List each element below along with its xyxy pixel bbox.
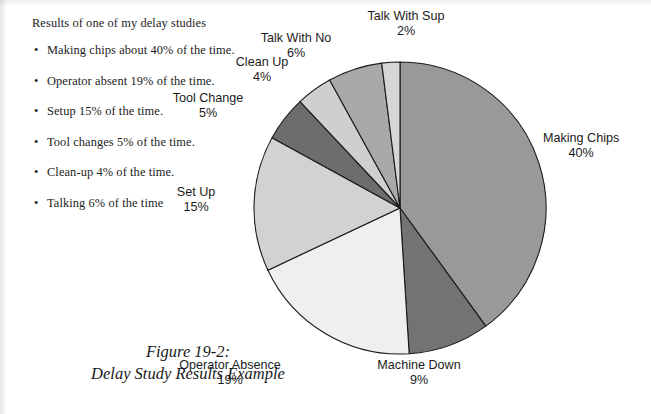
pie-label-talk-with-sup: Talk With Sup 2% bbox=[350, 9, 462, 39]
pie-label-name: Talk With No bbox=[241, 31, 351, 46]
pie-label-making-chips: Making Chips 40% bbox=[543, 131, 619, 161]
pie-label-value: 2% bbox=[350, 24, 462, 39]
pie-label-value: 40% bbox=[543, 146, 619, 161]
pie-label-name: Talk With Sup bbox=[350, 9, 462, 24]
pie-label-value: 15% bbox=[153, 200, 239, 215]
pie-label-name: Tool Change bbox=[153, 91, 263, 106]
pie-label-value: 19% bbox=[165, 373, 295, 388]
pie-label-value: 6% bbox=[241, 46, 351, 61]
pie-label-talk-with-no: Talk With No 6% bbox=[241, 31, 351, 61]
pie-label-value: 9% bbox=[364, 373, 474, 388]
pie-slice-group bbox=[254, 62, 546, 354]
figure-page: Results of one of my delay studies • Mak… bbox=[0, 0, 651, 414]
pie-label-tool-change: Tool Change 5% bbox=[153, 91, 263, 121]
pie-label-value: 5% bbox=[153, 106, 263, 121]
pie-label-machine-down: Machine Down 9% bbox=[364, 358, 474, 388]
pie-label-set-up: Set Up 15% bbox=[153, 185, 239, 215]
pie-label-name: Machine Down bbox=[364, 358, 474, 373]
pie-label-name: Set Up bbox=[153, 185, 239, 200]
pie-label-value: 4% bbox=[212, 70, 312, 85]
pie-label-name: Operator Absence bbox=[165, 358, 295, 373]
pie-chart: Making Chips 40% Machine Down 9% Operato… bbox=[0, 0, 651, 414]
pie-label-operator-absence: Operator Absence 19% bbox=[165, 358, 295, 388]
pie-label-name: Making Chips bbox=[543, 131, 619, 146]
pie-chart-svg bbox=[0, 0, 651, 414]
